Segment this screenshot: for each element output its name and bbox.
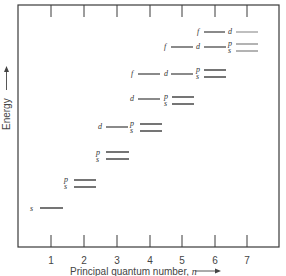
bottom-ticks: [51, 235, 247, 247]
tick-label-3: 3: [114, 255, 120, 266]
level-group-n4: p s d f: [129, 69, 162, 135]
label-6s: s: [196, 72, 199, 81]
tick-label-4: 4: [147, 255, 153, 266]
level-group-n5: p s d f: [163, 42, 194, 108]
level-group-n3: p s d: [95, 122, 129, 164]
level-group-top: f d: [197, 27, 258, 36]
label-4d: d: [130, 94, 135, 103]
x-axis-arrow-icon: [195, 269, 221, 274]
label-1s: s: [30, 204, 33, 213]
x-axis-label: Principal quantum number, n: [70, 266, 197, 276]
label-7s: s: [228, 46, 231, 55]
x-tick-labels: 1 2 3 4 5 6 7: [48, 255, 250, 266]
label-6d: d: [196, 42, 201, 51]
level-group-n2: p s: [63, 175, 96, 191]
label-6d-top: d: [228, 27, 233, 36]
label-5f: f: [164, 42, 168, 51]
tick-label-1: 1: [48, 255, 54, 266]
y-axis-arrow-icon: [4, 66, 9, 90]
label-5s: s: [164, 99, 167, 108]
level-group-n7: p s: [227, 39, 258, 55]
label-2s: s: [64, 182, 67, 191]
energy-level-diagram: 1 2 3 4 5 6 7 Principal quantum number, …: [0, 0, 286, 276]
label-3s: s: [96, 155, 99, 164]
label-5f-top: f: [197, 27, 201, 36]
y-axis-label-group: Energy: [1, 66, 12, 130]
level-group-n6: p s d: [195, 42, 226, 81]
level-group-n1: s: [30, 204, 63, 213]
label-4f: f: [131, 69, 135, 78]
y-axis-label: Energy: [1, 98, 12, 130]
top-ticks: [51, 5, 247, 17]
label-4s: s: [130, 126, 133, 135]
label-5d: d: [164, 69, 169, 78]
tick-label-7: 7: [244, 255, 250, 266]
tick-label-5: 5: [179, 255, 185, 266]
plot-frame: [18, 5, 279, 247]
tick-label-6: 6: [212, 255, 218, 266]
tick-label-2: 2: [81, 255, 87, 266]
label-3d: d: [98, 122, 103, 131]
